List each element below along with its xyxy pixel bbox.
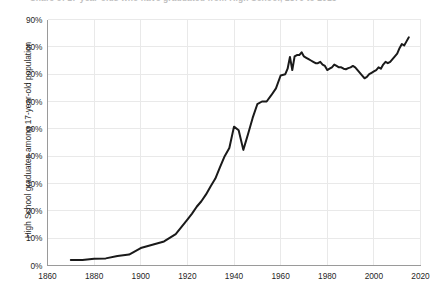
- series-line: [71, 37, 409, 260]
- y-tick-label: 70%: [26, 69, 43, 79]
- y-tick-label: 0%: [31, 261, 44, 271]
- y-tick-label: 40%: [26, 151, 43, 161]
- y-tick-label: 90%: [26, 15, 43, 25]
- line-chart-plot: 0%10%20%30%40%50%60%70%80%90% 1860188019…: [0, 0, 441, 293]
- x-tick-label: 1900: [132, 271, 151, 281]
- y-tick-label: 50%: [26, 124, 43, 134]
- y-axis-tick-labels: 0%10%20%30%40%50%60%70%80%90%: [26, 15, 43, 271]
- x-tick-label: 1920: [178, 271, 197, 281]
- x-axis-tick-labels: 186018801900192019401960198020002020: [38, 271, 430, 281]
- chart-container: Share of 17-year-olds who have graduated…: [0, 0, 441, 293]
- y-tick-label: 80%: [26, 42, 43, 52]
- x-tick-label: 1880: [85, 271, 104, 281]
- x-tick-label: 1940: [225, 271, 244, 281]
- y-tick-label: 20%: [26, 206, 43, 216]
- x-tick-label: 1960: [271, 271, 290, 281]
- data-series-layer: [71, 37, 409, 260]
- y-tick-label: 10%: [26, 233, 43, 243]
- y-tick-label: 30%: [26, 179, 43, 189]
- x-tick-label: 1860: [38, 271, 57, 281]
- y-tick-label: 60%: [26, 97, 43, 107]
- x-tick-label: 1980: [318, 271, 337, 281]
- gridlines: [48, 20, 421, 266]
- x-tick-label: 2000: [365, 271, 384, 281]
- x-tick-label: 2020: [411, 271, 430, 281]
